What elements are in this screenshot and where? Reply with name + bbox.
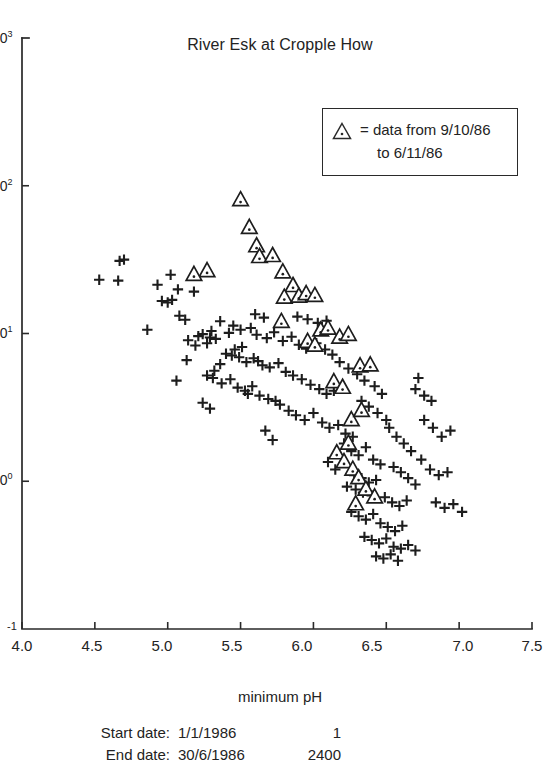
data-point-plus (393, 555, 403, 565)
data-point-triangle-dot (206, 272, 209, 275)
data-point-plus (349, 470, 359, 480)
data-point-triangle (242, 219, 258, 233)
data-point-plus (190, 340, 200, 350)
data-point-triangle-dot (357, 479, 360, 482)
xtick-label-6-0: 6.0 (279, 637, 325, 654)
data-point-triangle (307, 287, 323, 301)
data-point-plus (377, 389, 387, 399)
data-point-triangle-dot (338, 338, 341, 341)
data-point-triangle-dot (306, 342, 309, 345)
data-point-triangle-dot (248, 228, 251, 231)
ytick-base-1000: 10 (0, 30, 8, 46)
data-point-plus (358, 487, 368, 497)
data-point-plus (391, 432, 401, 442)
data-point-plus (193, 331, 203, 341)
data-point-plus (381, 533, 391, 543)
data-point-triangle (348, 496, 364, 510)
data-point-plus (346, 446, 356, 456)
data-point-plus (209, 366, 219, 376)
data-point-plus (343, 363, 353, 373)
data-point-plus (426, 396, 436, 406)
data-point-triangle-dot (292, 287, 295, 290)
data-point-plus (334, 357, 344, 367)
data-point-plus (215, 316, 225, 326)
data-point-triangle-dot (350, 421, 353, 424)
data-point-plus (321, 389, 331, 399)
data-point-plus (384, 423, 394, 433)
series-plus-series (94, 254, 467, 565)
data-point-triangle-dot (360, 411, 363, 414)
data-point-triangle-dot (347, 335, 350, 338)
data-point-plus (410, 545, 420, 555)
data-point-plus (368, 509, 378, 519)
data-point-plus (174, 310, 184, 320)
ytick-base-100: 10 (0, 178, 8, 194)
data-point-triangle (252, 248, 268, 262)
data-point-plus (388, 542, 398, 552)
data-point-plus (241, 357, 251, 367)
data-point-triangle (329, 445, 345, 459)
data-point-triangle (354, 402, 370, 416)
data-point-plus (399, 438, 409, 448)
data-point-plus (396, 543, 406, 553)
data-point-plus (436, 432, 446, 442)
data-point-plus (388, 462, 398, 472)
data-point-plus (260, 425, 270, 435)
data-point-plus (302, 314, 312, 324)
x-axis-ticks (22, 622, 532, 629)
data-point-plus (321, 316, 331, 326)
data-point-triangle (320, 320, 336, 334)
xtick-label-7-0: 7.0 (440, 637, 486, 654)
data-point-triangle-dot (280, 322, 283, 325)
data-point-plus (240, 386, 250, 396)
data-point-triangle (352, 358, 368, 372)
data-point-triangle (186, 266, 202, 280)
ytick-exponent-0point1: -1 (7, 620, 17, 632)
ytick-label-0point1: -1 (7, 620, 17, 632)
data-point-plus (265, 362, 275, 372)
data-point-plus (401, 495, 411, 505)
footer-block: Start date: 1/1/1986 1 End date: 30/6/19… (0, 722, 430, 766)
data-point-plus (324, 423, 334, 433)
data-point-plus (262, 333, 272, 343)
data-point-triangle (326, 374, 342, 388)
data-point-plus (278, 336, 288, 346)
data-point-triangle (300, 333, 316, 347)
data-point-plus (387, 497, 397, 507)
data-point-plus (353, 450, 363, 460)
data-point-plus (374, 538, 384, 548)
data-point-plus (448, 499, 458, 509)
data-point-plus (283, 406, 293, 416)
data-point-plus (317, 417, 327, 427)
data-point-plus (114, 256, 124, 266)
data-point-plus (202, 370, 212, 380)
data-point-plus (356, 473, 366, 483)
data-point-plus (257, 360, 267, 370)
data-point-plus (439, 503, 449, 513)
y-axis-ticks (22, 186, 29, 482)
scatter-plot-figure: River Esk at Cropple How 103 102 101 100… (0, 0, 560, 769)
data-point-triangle-dot (354, 505, 357, 508)
data-point-plus (281, 367, 291, 377)
data-point-plus (419, 415, 429, 425)
data-point-plus (383, 522, 393, 532)
data-point-plus (394, 501, 404, 511)
ytick-exponent-1000: 3 (8, 29, 13, 39)
data-point-triangle (277, 289, 293, 303)
data-point-plus (142, 325, 152, 335)
end-date-value: 30/6/1986 (178, 744, 283, 766)
data-point-plus (339, 438, 349, 448)
data-point-plus (250, 309, 260, 319)
data-point-triangle (341, 326, 357, 340)
data-point-plus (340, 428, 350, 438)
data-point-plus (364, 477, 374, 487)
data-point-plus (320, 344, 330, 354)
data-point-plus (197, 398, 207, 408)
data-point-plus (385, 549, 395, 559)
data-point-plus (410, 479, 420, 489)
data-point-plus (263, 394, 273, 404)
data-point-plus (359, 375, 369, 385)
end-number-value: 2400 (283, 744, 341, 766)
data-point-plus (372, 408, 382, 418)
legend-box (322, 108, 518, 176)
